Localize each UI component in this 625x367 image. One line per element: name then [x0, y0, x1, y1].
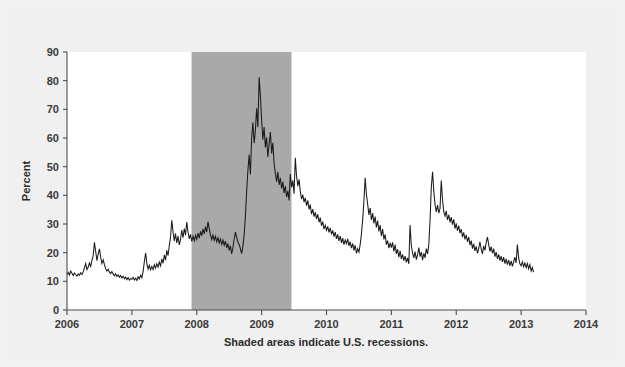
x-tick-label: 2008	[185, 318, 209, 330]
chart-caption: Shaded areas indicate U.S. recessions.	[224, 336, 428, 348]
time-series-chart: 0102030405060708090 20062007200820092010…	[8, 6, 617, 358]
y-tick-label: 70	[47, 103, 59, 115]
x-tick-label: 2006	[55, 318, 79, 330]
x-tick-label: 2014	[574, 318, 599, 330]
y-tick-label: 30	[47, 218, 59, 230]
y-tick-label: 40	[47, 189, 59, 201]
y-axis-ticks: 0102030405060708090	[47, 46, 67, 316]
y-tick-label: 0	[53, 304, 59, 316]
y-tick-label: 60	[47, 132, 59, 144]
y-axis-title: Percent	[20, 160, 32, 201]
y-tick-label: 20	[47, 247, 59, 259]
x-tick-label: 2013	[509, 318, 533, 330]
y-tick-label: 50	[47, 161, 59, 173]
y-tick-label: 90	[47, 46, 59, 58]
x-axis-ticks: 200620072008200920102011201220132014	[55, 310, 599, 330]
x-tick-label: 2011	[379, 318, 403, 330]
x-tick-label: 2009	[249, 318, 273, 330]
chart-figure: 0102030405060708090 20062007200820092010…	[8, 6, 617, 358]
y-tick-label: 10	[47, 275, 59, 287]
figure-page: 0102030405060708090 20062007200820092010…	[0, 0, 625, 367]
x-tick-label: 2010	[314, 318, 338, 330]
x-tick-label: 2012	[444, 318, 468, 330]
y-tick-label: 80	[47, 75, 59, 87]
x-tick-label: 2007	[120, 318, 144, 330]
plot-area-background	[67, 52, 586, 310]
